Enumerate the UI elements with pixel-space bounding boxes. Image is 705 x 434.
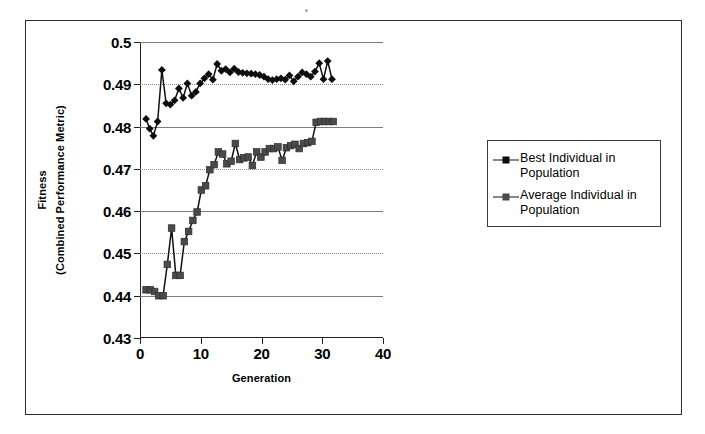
y-axis-title-line1: Fitness (36, 170, 48, 209)
y-tick-label: 0.48 (103, 118, 131, 135)
diamond-data-point (146, 125, 154, 133)
square-data-point (164, 261, 171, 268)
diamond-data-point (183, 80, 191, 88)
legend-label-best: Best Individual in Population (520, 151, 654, 182)
square-data-point (219, 151, 226, 158)
x-tick-label: 10 (193, 345, 209, 362)
diamond-marker-icon (492, 152, 520, 168)
diamond-data-point (175, 85, 183, 93)
square-data-point (249, 162, 256, 169)
y-tick-label: 0.43 (103, 330, 131, 347)
square-data-point (232, 140, 239, 147)
x-tick (140, 338, 141, 344)
diamond-data-point (213, 60, 221, 68)
y-tick-label: 0.45 (103, 245, 131, 262)
chart-figure: Fitness (Combined Performance Metric) 0.… (0, 0, 705, 434)
y-tick-label: 0.47 (103, 160, 131, 177)
square-data-point (211, 161, 218, 168)
diamond-data-point (149, 132, 157, 140)
diamond-data-point (315, 59, 323, 67)
y-axis-title-line2: (Combined Performance Metric) (54, 105, 66, 275)
diamond-data-point (158, 66, 166, 74)
square-data-point (245, 154, 252, 161)
legend-label-average: Average Individual in Population (520, 188, 654, 219)
square-data-point (168, 225, 175, 232)
x-tick (322, 338, 323, 344)
y-axis-title: Fitness (Combined Performance Metric) (40, 42, 96, 338)
diamond-data-point (154, 118, 162, 126)
x-tick (383, 338, 384, 344)
x-tick-label: 30 (314, 345, 330, 362)
square-data-point (181, 238, 188, 245)
x-tick-label: 20 (253, 345, 269, 362)
series-line (146, 122, 333, 296)
diamond-data-point (328, 75, 336, 83)
diamond-data-point (324, 57, 332, 65)
square-data-point (160, 292, 167, 299)
diamond-data-point (142, 115, 150, 123)
square-data-point (202, 182, 209, 189)
square-data-point (228, 158, 235, 165)
data-series-layer (140, 42, 383, 338)
x-tick (201, 338, 202, 344)
square-data-point (275, 144, 282, 151)
x-axis-title: Generation (140, 372, 383, 384)
square-data-point (279, 157, 286, 164)
x-tick (262, 338, 263, 344)
square-data-point (177, 272, 184, 279)
scan-artifact-speck (305, 9, 308, 12)
square-data-point (330, 118, 337, 125)
chart-legend: Best Individual in Population Average In… (487, 140, 661, 227)
square-data-point (185, 228, 192, 235)
y-tick-label: 0.49 (103, 76, 131, 93)
plot-area: 0.430.440.450.460.470.480.490.5 01020304… (140, 42, 383, 338)
y-tick-label: 0.44 (103, 287, 131, 304)
square-data-point (190, 217, 197, 224)
x-tick-label: 40 (375, 345, 391, 362)
legend-item-best: Best Individual in Population (492, 151, 654, 182)
square-data-point (194, 209, 201, 216)
square-marker-icon (492, 189, 520, 205)
y-tick-label: 0.46 (103, 203, 131, 220)
legend-item-average: Average Individual in Population (492, 188, 654, 219)
x-tick-label: 0 (136, 345, 144, 362)
y-tick-label: 0.5 (111, 34, 131, 51)
diamond-data-point (320, 75, 328, 83)
square-data-point (309, 138, 316, 145)
diamond-data-point (179, 94, 187, 102)
